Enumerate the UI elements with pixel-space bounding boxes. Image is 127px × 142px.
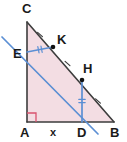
segment-labels: x — [50, 126, 57, 138]
figure-canvas: CEKHADB x — [0, 0, 127, 142]
label-B: B — [110, 125, 119, 140]
label-H: H — [83, 61, 92, 76]
label-E: E — [13, 46, 22, 61]
label-K: K — [57, 32, 67, 47]
label-A: A — [20, 125, 30, 140]
tick-KH-stroke-1 — [65, 61, 70, 65]
label-D: D — [77, 125, 86, 140]
point-dot-H — [80, 78, 85, 83]
tick-KH — [65, 61, 70, 65]
point-dot-K — [51, 45, 56, 50]
label-C: C — [22, 1, 32, 16]
label-segment-x: x — [50, 126, 57, 138]
geometry-figure: CEKHADB x — [0, 0, 127, 142]
